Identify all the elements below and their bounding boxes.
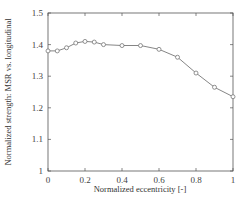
y-axis-ticks: 11.11.21.31.41.5 bbox=[32, 8, 233, 176]
plot-frame bbox=[48, 13, 233, 171]
x-tick-label: 0.8 bbox=[190, 175, 202, 185]
y-tick-label: 1.1 bbox=[32, 134, 43, 144]
data-point-marker bbox=[194, 71, 198, 75]
data-point-marker bbox=[157, 47, 161, 51]
x-tick-label: 1 bbox=[231, 175, 236, 185]
data-point-marker bbox=[74, 41, 78, 45]
y-axis-label: Normalized strength: MSR vs. longitudina… bbox=[3, 18, 13, 166]
y-tick-label: 1 bbox=[39, 166, 44, 176]
y-tick-label: 1.4 bbox=[32, 40, 44, 50]
y-tick-label: 1.3 bbox=[32, 71, 44, 81]
y-tick-label: 1.2 bbox=[32, 103, 43, 113]
x-tick-label: 0 bbox=[46, 175, 51, 185]
data-point-marker bbox=[231, 95, 235, 99]
data-point-marker bbox=[213, 85, 217, 89]
x-axis-label: Normalized eccentricity [-] bbox=[94, 184, 187, 194]
plot-area bbox=[48, 13, 233, 171]
data-point-marker bbox=[120, 44, 124, 48]
y-tick-label: 1.5 bbox=[32, 8, 44, 18]
data-point-marker bbox=[92, 40, 96, 44]
series-line bbox=[48, 41, 233, 96]
line-chart: 00.20.40.60.81 11.11.21.31.41.5 Normaliz… bbox=[0, 0, 250, 200]
x-axis-ticks: 00.20.40.60.81 bbox=[46, 13, 236, 185]
data-point-marker bbox=[65, 46, 69, 50]
data-point-marker bbox=[55, 49, 59, 53]
data-series bbox=[46, 39, 235, 98]
data-point-marker bbox=[176, 55, 180, 59]
data-point-marker bbox=[139, 44, 143, 48]
x-tick-label: 0.2 bbox=[79, 175, 90, 185]
data-point-marker bbox=[83, 39, 87, 43]
data-point-marker bbox=[46, 49, 50, 53]
data-point-marker bbox=[102, 43, 106, 47]
